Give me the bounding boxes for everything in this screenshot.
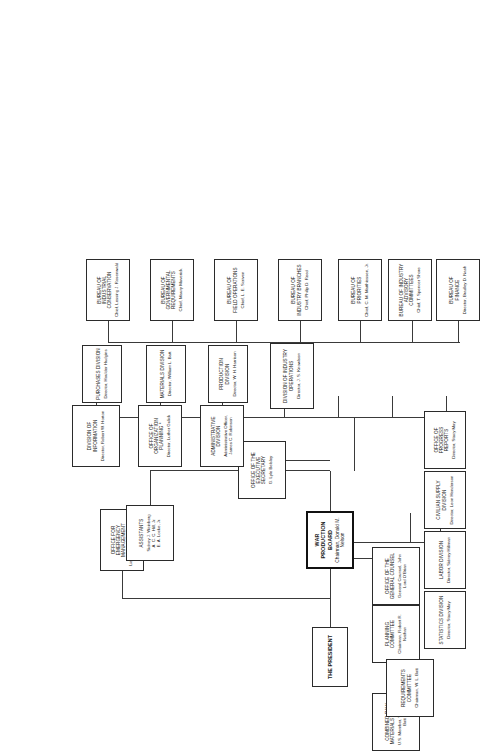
node-subtitle: Director, W. H. Harrison [232,351,237,396]
connector-b-indcons [108,321,109,343]
node-title: MATERIALS DIVISION [160,350,165,399]
node-title-line2: INDUSTRY BRANCHES [297,264,302,315]
node-title-line2: GENERAL COUNSEL [390,553,395,599]
node-subtitle: G. Lyle Belsley [268,456,273,485]
node-subtitle: Director, Stacy May [446,601,451,638]
node-title-line2: PRIORITIES [357,277,362,304]
node-bureau-field-operations[interactable]: BUREAU OF FIELD OPERATIONS Chief, L. E. … [214,259,258,321]
node-office-executive-secretary[interactable]: OFFICE OF THE EXECUTIVE SECRETARY G. Lyl… [238,441,286,499]
node-subtitle: Director, Leon Henderson [449,476,454,525]
node-subtitle: Director, Stacy May [451,421,456,458]
node-title: ASSISTANTS [139,518,144,547]
connector-b-fieldops [236,321,237,343]
node-office-progress-reports[interactable]: OFFICE OF PROGRESS REPORTS Director, Sta… [424,411,466,469]
node-title-line2: ADVISORY COMMITTEES [404,262,415,318]
connector-div-progress [338,396,339,418]
node-subtitle: Chairman, W. L. Batt [414,668,419,708]
node-bureau-industry-advisory-committees[interactable]: BUREAU OF INDUSTRY ADVISORY COMMITTEES C… [388,259,432,321]
node-title-line2: INDUSTRIAL CONSERVATION [102,262,113,318]
node-office-organization-planning[interactable]: OFFICE OF ORGANIZATION PLANNING * Direct… [138,405,182,467]
node-bureau-industrial-conservation[interactable]: BUREAU OF INDUSTRIAL CONSERVATION Chief,… [86,259,130,321]
node-title: STATISTICS DIVISION [439,596,444,645]
node-title-line2: EXECUTIVE SECRETARY [256,444,267,496]
node-production-division[interactable]: PRODUCTION DIVISION Director, W. H. Harr… [208,345,248,403]
node-requirements-committee[interactable]: REQUIREMENTS COMMITTEE Chairman, W. L. B… [386,659,434,717]
node-title-line1: BUREAU OF GOVERNMENTAL [161,262,172,318]
node-administrative-division[interactable]: ADMINISTRATIVE DIVISION Administrative O… [200,405,244,467]
node-title: PLANNING COMMITTEE [385,608,396,660]
node-subtitle: Chief, C. M. Matthiessen, Jr. [364,263,369,317]
node-subtitle: Director, J. S. Knowlson [296,353,301,399]
node-subtitle: Administrative Officer, James C. Robinso… [223,415,233,457]
connector-b-branches [300,321,301,343]
node-title: DIVISION OF INDUSTRY OPERATIONS [283,346,294,406]
node-purchases-division[interactable]: PURCHASES DIVISION Director, Houlder Hud… [82,345,122,403]
node-statistics-division[interactable]: STATISTICS DIVISION Director, Stacy May [424,591,466,649]
connector-spine-feed [354,418,355,471]
connector-b-priorities [360,321,361,343]
node-subtitle: Chief, Lessing J. Rosenwald [114,263,119,317]
node-war-production-board[interactable]: WAR PRODUCTION BOARD Chairman, Donald M.… [306,511,354,569]
node-subtitle: Director, Luther Gulick [166,415,171,458]
node-subtitle: Chairman, Donald M. Nelson [335,515,346,565]
connector-requirements [410,513,411,543]
node-civilian-supply-division[interactable]: CIVILIAN SUPPLY DIVISION Director, Leon … [424,471,466,529]
node-division-industry-operations[interactable]: DIVISION OF INDUSTRY OPERATIONS Director… [270,343,314,409]
connector-b-advcmte [412,321,413,343]
node-planning-committee[interactable]: PLANNING COMMITTEE Chairman, Robert R. N… [372,605,420,663]
connector-assistants [150,471,151,505]
node-subtitle: General Counsel, John Lord O'Brian [397,550,407,602]
node-title: ADMINISTRATIVE DIVISION [211,408,222,464]
node-title: THE PRESIDENT [327,635,333,679]
node-subtitle: Sidney J. Weinberg A. C. C. Hill, Jr. E.… [146,514,161,551]
node-subtitle: Chief, T. Spencer Shore [416,267,421,313]
node-bureau-industry-branches[interactable]: BUREAU OF INDUSTRY BRANCHES Chief, Phili… [278,259,322,321]
node-title-line2: FIELD OPERATIONS [233,267,238,312]
node-title-line2: PLANNING * [159,422,164,449]
node-labor-division[interactable]: LABOR DIVISION Director, Sidney Hillman [424,531,466,589]
node-bureau-of-priorities[interactable]: BUREAU OF PRIORITIES Chief, C. M. Matthi… [338,259,382,321]
node-subtitle: Chief, Maury Maverick [178,269,183,312]
node-assistants[interactable]: ASSISTANTS Sidney J. Weinberg A. C. C. H… [126,505,174,561]
connector-wpb-right [330,471,331,511]
node-title: PRODUCTION DIVISION [219,348,230,400]
node-title-line1: OFFICE OF PROGRESS [434,414,445,466]
node-title-line2: INFORMATION [93,420,98,453]
connector-div-civsupply [392,396,393,418]
node-bureau-of-finance[interactable]: BUREAU OF FINANCE Director, Bradley D. N… [436,259,480,321]
node-subtitle: Director, William L. Batt [167,352,172,397]
node-title-line2: REPORTS [444,429,449,452]
connector-b-govtreq [172,321,173,343]
node-bureau-governmental-requirements[interactable]: BUREAU OF GOVERNMENTAL REQUIREMENTS Chie… [150,259,194,321]
node-subtitle: Chief, L. E. Scriven [240,272,245,309]
node-office-general-counsel[interactable]: OFFICE OF THE GENERAL COUNSEL General Co… [372,547,420,605]
connector-oem-h [122,571,123,599]
node-the-president[interactable]: THE PRESIDENT [312,627,348,687]
connector-oem-stem [122,598,330,599]
node-title: PURCHASES DIVISION [96,348,101,399]
node-materials-division[interactable]: MATERIALS DIVISION Director, William L. … [146,345,186,403]
node-title: CIVILIAN SUPPLY DIVISION [436,474,447,526]
node-title-line2: REQUIREMENTS [171,271,176,309]
node-subtitle: Director, Houlder Hudgins [103,349,108,398]
connector-president-wpb [330,569,331,627]
node-title-line2: COMMITTEE [407,674,412,702]
connector-b-finance [458,321,459,343]
node-title-line2: FINANCE [455,280,460,301]
node-title-line1: OFFICE OF ORGANIZATION [149,408,160,464]
node-subtitle: Chairman, Robert R. Nathan [397,608,407,660]
node-subtitle: Director, Sidney Hillman [446,537,451,583]
node-subtitle: Chief, Philip D. Reed [304,270,309,310]
node-title: WAR PRODUCTION BOARD [314,515,333,565]
node-title: LABOR DIVISION [439,541,444,579]
node-subtitle: Director, Bradley D. Nash [462,266,467,314]
node-subtitle: Director, Robert W. Horton [100,411,105,461]
node-division-of-information[interactable]: DIVISION OF INFORMATION Director, Robert… [72,405,120,467]
